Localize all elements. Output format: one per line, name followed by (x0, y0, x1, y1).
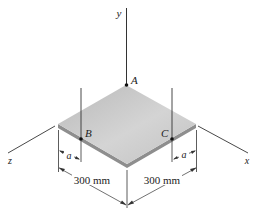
dim-a-right-label: a (182, 149, 187, 160)
point-c (170, 137, 174, 141)
plate-top (58, 85, 196, 164)
point-c-label: C (161, 127, 169, 139)
y-axis-label: y (116, 7, 122, 19)
dim-300-right-label: 300 mm (144, 174, 181, 186)
point-a (125, 83, 129, 87)
z-axis (8, 126, 55, 153)
plate-diagram: a a 300 mm 300 mm y z x A B C (0, 0, 256, 213)
dim-a-left-label: a (67, 150, 72, 161)
dim-300-left-label: 300 mm (74, 174, 111, 186)
z-axis-label: z (7, 155, 12, 166)
point-b (79, 137, 83, 141)
x-axis-label: x (244, 155, 250, 166)
point-b-label: B (85, 127, 92, 139)
x-axis (198, 126, 248, 153)
point-a-label: A (130, 74, 138, 86)
